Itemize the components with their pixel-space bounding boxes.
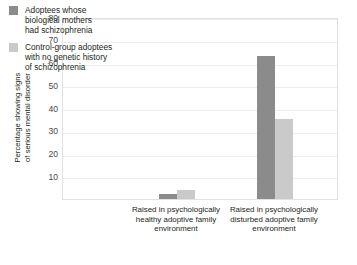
legend-item: Adoptees whose biological mothers had sc… — [9, 5, 189, 35]
y-axis-tick-label: 20 — [32, 150, 58, 159]
gridline — [63, 110, 337, 111]
bar-chart-figure: Percentage showing signs of serious ment… — [0, 0, 357, 265]
gridline — [63, 133, 337, 134]
legend-swatch-icon — [9, 6, 18, 15]
bar-series-1 — [275, 119, 293, 199]
gridline — [63, 156, 337, 157]
gridline — [63, 87, 337, 88]
bar-group — [257, 56, 293, 199]
bar-series-0 — [159, 194, 177, 199]
chart-legend: Adoptees whose biological mothers had sc… — [9, 5, 189, 79]
legend-swatch-icon — [9, 43, 18, 52]
y-axis-tick-label: 10 — [32, 173, 58, 182]
gridline — [63, 178, 337, 179]
y-axis-tick-label: 50 — [32, 82, 58, 91]
y-axis-tick-label: 40 — [32, 105, 58, 114]
bar-group — [159, 190, 195, 199]
x-axis-category-label: Raised in psychologically disturbed adop… — [209, 205, 339, 234]
bar-series-1 — [177, 190, 195, 199]
bar-series-0 — [257, 56, 275, 199]
legend-item-label: Control-group adoptees with no genetic h… — [25, 42, 112, 72]
legend-item-label: Adoptees whose biological mothers had sc… — [25, 5, 92, 35]
y-axis-tick-label: 30 — [32, 127, 58, 136]
legend-item: Control-group adoptees with no genetic h… — [9, 42, 189, 72]
